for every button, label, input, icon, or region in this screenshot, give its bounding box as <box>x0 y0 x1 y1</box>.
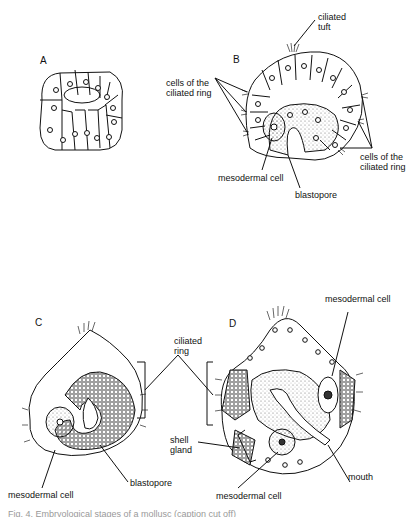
panel-b-embryo <box>215 20 372 188</box>
panel-c-letter: C <box>35 317 42 328</box>
figure-caption: Fig. 4. Embryological stages of a mollus… <box>8 509 408 517</box>
panel-a-letter: A <box>40 55 47 66</box>
panel-b-letter: B <box>233 54 240 65</box>
label-ring-right-b: cells of the ciliated ring <box>360 152 406 172</box>
label-mesodermal-cell-b: mesodermal cell <box>218 173 284 183</box>
label-ring-left-b: cells of the ciliated ring <box>166 78 212 98</box>
panel-d-embryo <box>198 306 363 488</box>
label-mesodermal-cell-d-bottom: mesodermal cell <box>216 491 282 501</box>
label-ciliated-tuft: ciliated tuft <box>318 12 346 32</box>
label-ciliated-ring: ciliated ring <box>174 336 202 356</box>
label-mesodermal-cell-d-top: mesodermal cell <box>325 294 391 304</box>
label-shell-gland: shell gland <box>170 435 192 455</box>
panel-a-embryo <box>40 70 123 150</box>
panel-d-letter: D <box>229 318 236 329</box>
label-mouth: mouth <box>348 472 373 482</box>
label-blastopore-c: blastopore <box>130 478 172 488</box>
label-blastopore-b: blastopore <box>295 190 337 200</box>
label-mesodermal-cell-c: mesodermal cell <box>8 490 74 500</box>
